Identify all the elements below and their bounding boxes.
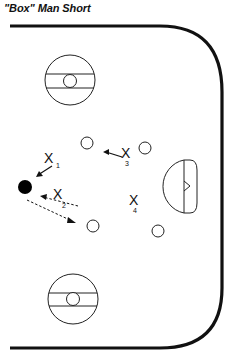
svg-text:X: X: [121, 145, 131, 161]
svg-text:2: 2: [62, 202, 66, 209]
rink-boundary: [10, 26, 222, 348]
offensive-player-2: [139, 142, 151, 154]
svg-text:X: X: [44, 150, 54, 166]
defender-x4: X 4: [129, 192, 139, 214]
offensive-player-3: [87, 220, 99, 232]
top-faceoff-circle: [45, 55, 95, 105]
puck-carrier: [18, 180, 32, 194]
offensive-player-1: [81, 137, 93, 149]
svg-text:1: 1: [56, 162, 60, 169]
offensive-player-4: [152, 225, 164, 237]
defender-x2: X 2: [27, 186, 78, 223]
bottom-faceoff-circle: [48, 274, 98, 324]
goal-net-icon: [184, 181, 190, 191]
svg-text:4: 4: [133, 207, 137, 214]
defender-x3: X 3: [103, 145, 131, 167]
svg-text:3: 3: [125, 160, 129, 167]
goal-crease: [163, 160, 197, 213]
defender-x1: X 1: [36, 150, 60, 177]
rink-diagram: X 1 X 2 X 3 X 4: [0, 0, 233, 350]
svg-text:X: X: [129, 192, 139, 208]
